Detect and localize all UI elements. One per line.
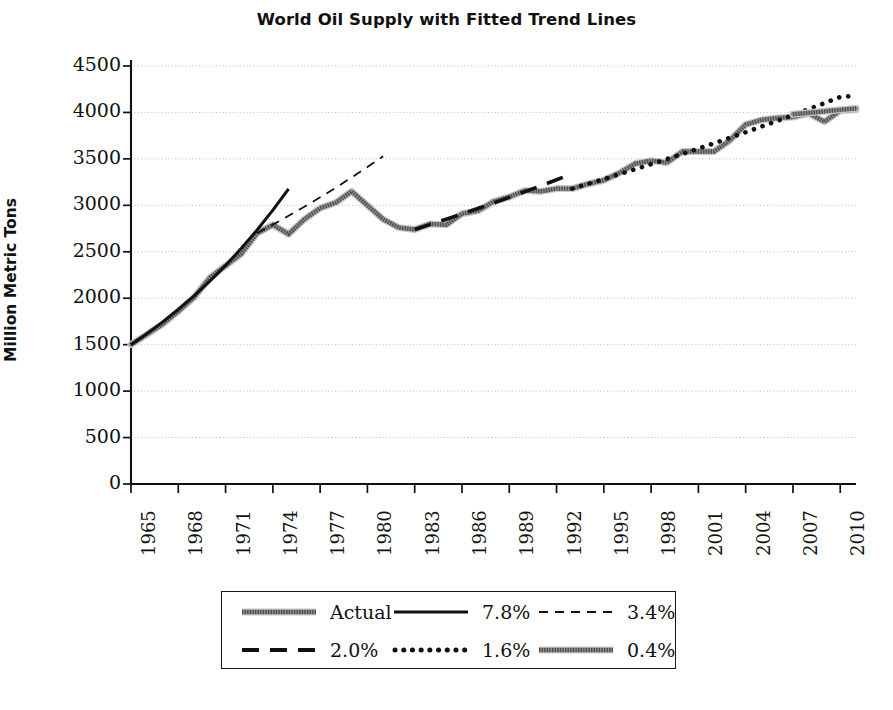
legend-label-20: 2.0% xyxy=(330,639,378,661)
legend-item-34[interactable]: 3.4% xyxy=(537,592,675,631)
legend-swatch-16 xyxy=(392,641,470,659)
legend-row: Actual 7.8% 3.4% xyxy=(222,592,677,631)
legend-label-34: 3.4% xyxy=(627,601,675,623)
legend-row: 2.0% 1.6% 0.4% xyxy=(222,630,677,669)
legend-item-20[interactable]: 2.0% xyxy=(240,630,378,669)
legend-item-actual[interactable]: Actual xyxy=(240,592,392,631)
chart-figure: World Oil Supply with Fitted Trend Lines… xyxy=(0,0,893,710)
legend-item-16[interactable]: 1.6% xyxy=(392,630,530,669)
data-series-layer xyxy=(131,96,856,345)
chart-legend: Actual 7.8% 3.4% 2.0% 1.6% 0.4% xyxy=(221,591,676,669)
legend-label-actual: Actual xyxy=(330,601,392,623)
legend-swatch-34 xyxy=(537,603,615,621)
legend-label-78: 7.8% xyxy=(482,601,530,623)
legend-swatch-actual xyxy=(240,603,318,621)
legend-swatch-78 xyxy=(392,603,470,621)
legend-item-04[interactable]: 0.4% xyxy=(537,630,675,669)
legend-label-16: 1.6% xyxy=(482,639,530,661)
legend-label-04: 0.4% xyxy=(627,639,675,661)
legend-swatch-20 xyxy=(240,641,318,659)
legend-item-78[interactable]: 7.8% xyxy=(392,592,530,631)
axis-ticks xyxy=(123,66,840,493)
legend-swatch-04 xyxy=(537,641,615,659)
